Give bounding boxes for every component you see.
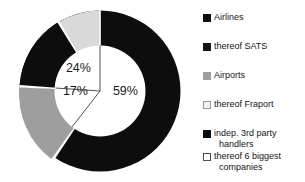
donut-chart-svg xyxy=(0,0,196,182)
legend-label-airports: Airports xyxy=(214,70,302,81)
legend-item-thereof-6-biggest[interactable]: thereof 6 biggestcompanies xyxy=(203,151,302,172)
legend-swatch-thereof-fraport xyxy=(203,101,211,109)
legend-item-thereof-fraport[interactable]: thereof Fraport xyxy=(203,99,302,110)
chart-legend: Airlines thereof SATS Airports thereof F… xyxy=(203,9,303,179)
legend-item-airlines[interactable]: Airlines xyxy=(203,12,302,23)
legend-swatch-thereof-6-biggest xyxy=(203,153,211,161)
legend-swatch-indep-handlers xyxy=(203,130,211,138)
legend-swatch-thereof-sats xyxy=(203,43,211,51)
legend-label-thereof-6-biggest: thereof 6 biggestcompanies xyxy=(214,151,302,172)
slice-label-airports: 17% xyxy=(63,84,88,98)
legend-label-thereof-sats: thereof SATS xyxy=(214,41,302,52)
legend-item-airports[interactable]: Airports xyxy=(203,70,302,81)
donut-chart: 59% 17% 24% xyxy=(0,0,196,182)
legend-label-thereof-6-biggest-line1: thereof 6 biggest xyxy=(214,151,281,161)
legend-label-indep-handlers-line1: indep. 3rd party xyxy=(214,128,277,138)
slice-label-indep-handlers: 24% xyxy=(66,61,91,75)
legend-swatch-airports xyxy=(203,72,211,80)
legend-label-indep-handlers: indep. 3rd partyhandlers xyxy=(214,128,302,149)
legend-swatch-airlines xyxy=(203,14,211,22)
legend-label-airlines: Airlines xyxy=(214,12,302,23)
legend-label-thereof-6-biggest-line2: companies xyxy=(214,162,302,173)
donut-divider-top xyxy=(99,10,101,46)
chart-page: 59% 17% 24% Airlines thereof SATS Airpor… xyxy=(0,0,305,182)
legend-item-thereof-sats[interactable]: thereof SATS xyxy=(203,41,302,52)
legend-label-thereof-fraport: thereof Fraport xyxy=(214,99,302,110)
legend-item-indep-handlers[interactable]: indep. 3rd partyhandlers xyxy=(203,128,302,149)
legend-label-indep-handlers-line2: handlers xyxy=(214,139,302,150)
slice-label-airlines: 59% xyxy=(113,84,138,98)
